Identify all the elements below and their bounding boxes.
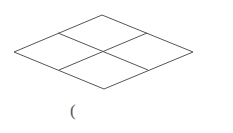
caption-parenthesis: ( — [70, 102, 76, 119]
rhombus-grid-diagram — [0, 0, 233, 133]
